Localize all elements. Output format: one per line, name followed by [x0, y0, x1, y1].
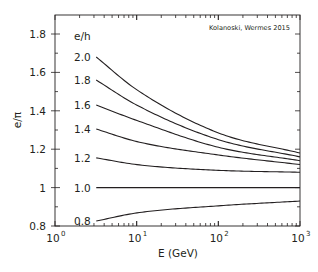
y-tick-label: 1	[39, 182, 46, 194]
curve-label: 1.4	[74, 123, 91, 135]
curve-label: 1.8	[74, 74, 91, 86]
x-tick-label: 10	[128, 232, 141, 244]
curve-label: 0.8	[74, 215, 91, 227]
y-tick-label: 1.8	[29, 28, 46, 40]
y-tick-label: 1.6	[29, 66, 46, 78]
curve-label: 1.0	[74, 182, 91, 194]
y-tick-label: 1.2	[29, 143, 46, 155]
axis-ticks	[51, 15, 300, 226]
chart-canvas: 0.811.21.41.61.8100101102103 2.01.81.61.…	[0, 0, 318, 272]
x-tick-exponent: 2	[224, 230, 228, 238]
plot-frame	[55, 15, 300, 226]
y-tick-label: 0.8	[29, 220, 46, 232]
plot-border	[55, 15, 300, 226]
x-axis-title: E (GeV)	[158, 247, 198, 259]
curve-label: 1.2	[74, 152, 91, 164]
data-curves	[96, 57, 300, 221]
x-tick-exponent: 0	[61, 230, 65, 238]
x-tick-label: 10	[46, 232, 59, 244]
x-tick-exponent: 3	[306, 230, 310, 238]
credit-annotation: Kolanoski, Wermes 2015	[209, 24, 290, 32]
y-axis-title: e/π	[11, 111, 23, 128]
x-tick-label: 10	[210, 232, 223, 244]
curve-eh-1-2	[96, 158, 300, 172]
tick-labels: 0.811.21.41.61.8100101102103	[29, 28, 310, 244]
curve-label: 2.0	[74, 51, 91, 63]
curve-labels: 2.01.81.61.41.21.00.8	[74, 51, 91, 227]
x-tick-label: 10	[291, 232, 304, 244]
x-tick-exponent: 1	[143, 230, 147, 238]
curve-label: 1.6	[74, 99, 91, 111]
curve-eh-1-8	[96, 80, 300, 157]
legend-title: e/h	[74, 30, 91, 42]
y-tick-label: 1.4	[29, 105, 46, 117]
curve-eh-0-8	[96, 201, 300, 221]
